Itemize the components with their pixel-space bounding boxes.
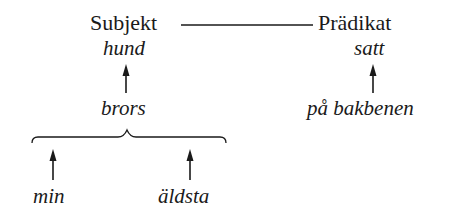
predicate-head-word: satt xyxy=(354,38,384,59)
arrow-up-icon xyxy=(50,149,57,180)
subject-label: Subjekt xyxy=(90,12,157,34)
predicate-label: Prädikat xyxy=(318,12,391,34)
arrow-up-icon xyxy=(123,64,130,93)
modifier-word-min: min xyxy=(33,186,65,207)
arrow-up-icon xyxy=(187,149,194,180)
subject-head-word: hund xyxy=(103,38,145,59)
curly-brace xyxy=(32,130,226,143)
arrow-up-icon xyxy=(370,64,377,93)
predicate-modifier-phrase: på bakbenen xyxy=(307,98,414,119)
modifier-word-aldsta: äldsta xyxy=(158,186,209,207)
subject-modifier-word: brors xyxy=(101,98,146,119)
